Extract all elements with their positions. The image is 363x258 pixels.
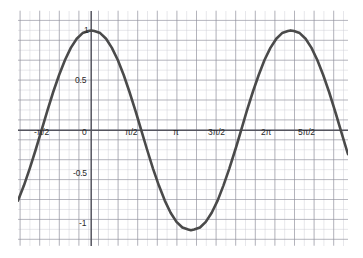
- x-tick-label-pi-over-2: π/2: [125, 127, 137, 137]
- x-tick-label-neg-pi-over-2: -π/2: [34, 127, 49, 137]
- y-tick-label-half: 0.5: [75, 75, 86, 85]
- x-tick-label-2pi: 2π: [261, 127, 271, 137]
- cosine-graph-figure: -π/2 0 π/2 π 3π/2 2π 5π/2 1 0.5 -0.5 -1: [0, 0, 363, 258]
- x-tick-label-zero: 0: [82, 127, 87, 137]
- x-tick-label-3pi-over-2: 3π/2: [208, 127, 225, 137]
- x-tick-label-pi: π: [173, 127, 179, 137]
- x-tick-label-5pi-over-2: 5π/2: [298, 127, 315, 137]
- y-tick-label-one: 1: [84, 25, 89, 35]
- y-tick-label-neg-one: -1: [79, 218, 86, 228]
- y-tick-label-neg-half: -0.5: [73, 168, 87, 178]
